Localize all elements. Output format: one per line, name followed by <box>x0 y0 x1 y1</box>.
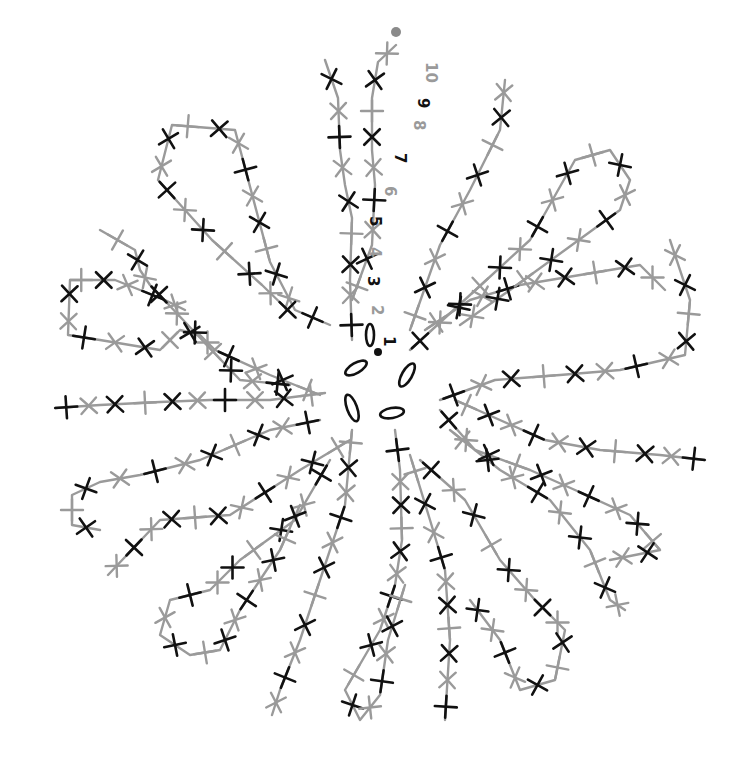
single-crochet-stitch <box>543 427 574 458</box>
single-crochet-stitch <box>632 537 663 568</box>
single-crochet-stitch <box>72 474 100 502</box>
single-crochet-stitch <box>497 411 525 439</box>
single-crochet-stitch <box>682 447 706 471</box>
single-crochet-stitch <box>420 244 449 273</box>
single-crochet-stitch <box>122 245 152 275</box>
single-crochet-stitch <box>428 544 455 571</box>
single-crochet-stitch <box>317 64 346 93</box>
single-crochet-stitch <box>539 186 566 213</box>
single-crochet-stitch <box>223 128 253 158</box>
row-label: 7 <box>391 153 409 163</box>
single-crochet-stitch <box>519 420 548 449</box>
single-crochet-stitch <box>607 152 633 178</box>
single-crochet-stitch <box>434 695 457 718</box>
single-crochet-stitch <box>301 581 329 609</box>
single-crochet-stitch <box>433 216 463 246</box>
single-crochet-stitch <box>71 512 102 543</box>
single-crochet-stitch <box>244 421 273 450</box>
single-crochet-stitch <box>275 464 301 490</box>
row-label: 4 <box>366 247 384 257</box>
single-crochet-stitch <box>381 558 412 589</box>
single-crochet-stitch <box>295 410 321 436</box>
single-crochet-stitch <box>261 688 291 718</box>
single-crochet-stitch <box>271 663 300 692</box>
single-crochet-stitch <box>602 495 630 523</box>
single-crochet-stitch <box>260 547 286 573</box>
single-crochet-stitch <box>237 181 267 211</box>
single-crochet-stitch <box>465 598 490 623</box>
single-crochet-stitch <box>660 240 690 270</box>
single-crochet-stitch <box>318 528 348 558</box>
single-crochet-stitch <box>508 265 539 296</box>
single-crochet-stitch <box>410 273 439 302</box>
single-crochet-stitch <box>177 582 204 609</box>
single-crochet-stitch <box>231 585 262 616</box>
single-crochet-stitch <box>491 638 520 667</box>
single-crochet-stitch <box>339 691 367 719</box>
single-crochet-stitch <box>571 432 602 463</box>
single-crochet-stitch <box>293 376 322 405</box>
chain-stitch-oval <box>396 361 418 389</box>
single-crochet-stitch <box>568 525 592 549</box>
single-crochet-stitch <box>267 412 298 443</box>
single-crochet-stitch <box>176 114 200 138</box>
row-label: 8 <box>410 120 428 130</box>
single-crochet-stitch <box>547 627 578 658</box>
single-crochet-stitch <box>401 458 428 485</box>
petal-path <box>158 125 330 325</box>
single-crochet-stitch <box>449 190 476 217</box>
single-crochet-stitch <box>340 314 363 337</box>
single-crochet-stitch <box>340 222 363 245</box>
single-crochet-stitch <box>591 205 622 236</box>
single-crochet-stitch <box>385 536 416 567</box>
single-crochet-stitch <box>150 603 180 633</box>
single-crochet-stitch <box>603 439 627 463</box>
single-crochet-stitch <box>268 383 299 414</box>
single-crochet-stitch <box>146 151 176 181</box>
single-crochet-stitch <box>247 567 273 593</box>
single-crochet-stitch <box>623 353 649 379</box>
row-label: 6 <box>381 186 399 196</box>
single-crochet-stitch <box>333 186 363 216</box>
single-crochet-stitch <box>545 655 571 681</box>
single-crochet-stitch <box>554 160 581 187</box>
single-crochet-stitch <box>574 482 603 511</box>
single-crochet-stitch <box>385 438 410 463</box>
single-crochet-stitch <box>464 161 492 189</box>
single-crochet-stitch <box>550 471 578 499</box>
single-crochet-stitch <box>253 235 280 262</box>
single-crochet-stitch <box>475 401 503 429</box>
single-crochet-stitch <box>153 124 183 154</box>
single-crochet-stitch <box>214 389 236 411</box>
single-crochet-stitch <box>328 126 351 149</box>
petal-path <box>272 430 352 715</box>
single-crochet-stitch <box>480 618 505 643</box>
single-crochet-stitch <box>100 327 131 358</box>
single-crochet-stitch <box>268 366 297 395</box>
single-crochet-stitch <box>229 494 255 520</box>
petal-path <box>440 240 690 400</box>
single-crochet-stitch <box>298 303 327 332</box>
row-labels: 12345678910 <box>364 62 440 346</box>
single-crochet-stitch <box>582 260 607 285</box>
single-crochet-stitch <box>361 100 383 122</box>
single-crochet-stitch <box>221 606 249 634</box>
single-crochet-stitch <box>468 281 498 311</box>
single-crochet-stitch <box>607 542 638 573</box>
start-dot <box>374 348 382 356</box>
chain-stitch-oval <box>343 358 369 379</box>
single-crochet-stitch <box>370 669 395 694</box>
single-crochet-stitch <box>548 500 572 524</box>
single-crochet-stitch <box>70 269 92 291</box>
single-crochet-stitch <box>339 660 369 690</box>
single-crochet-stitch <box>132 265 158 291</box>
row-label: 5 <box>366 216 384 226</box>
petal-path <box>72 420 320 530</box>
single-crochet-stitch <box>339 431 363 455</box>
single-crochet-stitch <box>550 262 581 293</box>
single-crochet-stitch <box>670 270 700 300</box>
single-crochet-stitch <box>327 152 358 183</box>
single-crochet-stitch <box>478 130 508 160</box>
single-crochet-stitch <box>539 247 564 272</box>
end-dot <box>391 27 401 37</box>
